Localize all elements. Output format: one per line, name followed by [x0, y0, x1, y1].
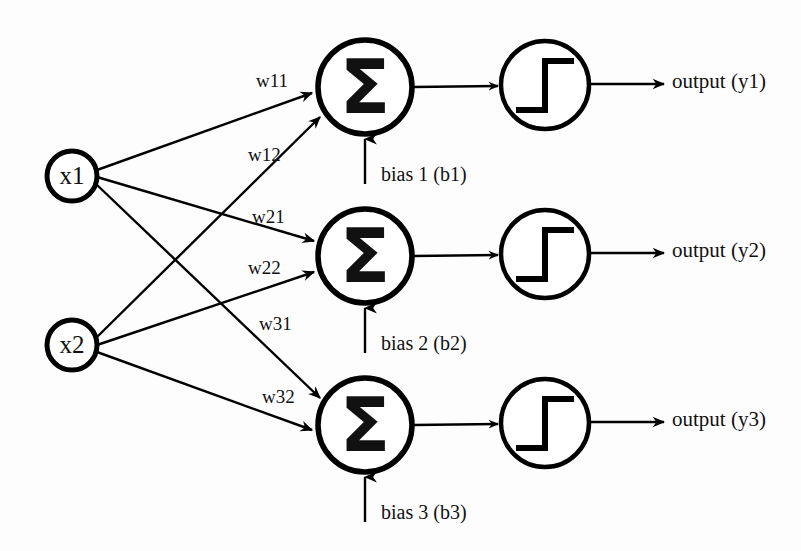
input-label-x2: x2 [60, 331, 85, 358]
edge-x2-to-neuron1 [96, 117, 320, 338]
activation-node-2[interactable] [501, 210, 589, 298]
weight-label-w11: w11 [256, 70, 288, 91]
activation-node-1[interactable] [501, 41, 589, 129]
edge-group-neuron-to-activation [413, 86, 498, 425]
sigma-icon-3: Σ [340, 382, 391, 468]
edge-x1-to-neuron3 [96, 184, 320, 398]
neuron-node-2[interactable]: Σ [318, 209, 412, 303]
bias-label-b2: bias 2 (b2) [381, 332, 467, 355]
neuron-node-1[interactable]: Σ [318, 40, 412, 134]
bias-label-b1: bias 1 (b1) [381, 163, 467, 186]
input-node-x1[interactable]: x1 [47, 151, 97, 201]
sigma-icon-2: Σ [340, 213, 391, 299]
weight-label-group: w11 w12 w21 w22 w31 w32 [248, 70, 295, 407]
output-label-y3: output (y3) [672, 407, 766, 431]
bias-label-b3: bias 3 (b3) [381, 501, 467, 524]
edge-group-activation-to-output [590, 84, 664, 422]
weight-label-w21: w21 [252, 206, 285, 227]
weight-label-w12: w12 [248, 144, 281, 165]
diagram-canvas: x1 x2 Σ Σ Σ [0, 0, 801, 551]
input-node-x2[interactable]: x2 [47, 320, 97, 370]
weight-label-w22: w22 [248, 257, 281, 278]
weight-label-w31: w31 [259, 313, 292, 334]
activation-node-3[interactable] [501, 379, 589, 467]
sigma-icon-1: Σ [340, 44, 391, 130]
edge-group-x1 [96, 93, 320, 398]
edge-group-x2 [96, 117, 320, 430]
edge-neuron2-to-activation2 [413, 255, 498, 256]
edge-neuron1-to-activation1 [413, 86, 498, 87]
neural-network-diagram: x1 x2 Σ Σ Σ [0, 0, 801, 551]
input-label-x1: x1 [60, 162, 85, 189]
edge-neuron3-to-activation3 [413, 424, 498, 425]
output-label-group: output (y1) output (y2) output (y3) [672, 69, 766, 431]
neuron-node-3[interactable]: Σ [318, 378, 412, 472]
output-label-y1: output (y1) [672, 69, 766, 93]
output-label-y2: output (y2) [672, 238, 766, 262]
weight-label-w32: w32 [262, 386, 295, 407]
